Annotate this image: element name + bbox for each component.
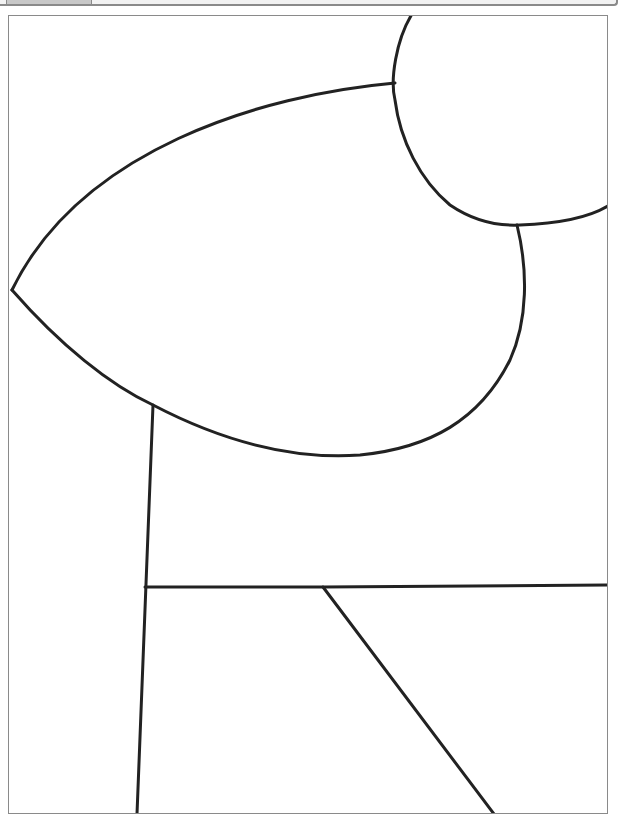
vertical-line bbox=[137, 405, 153, 814]
circle-shape bbox=[393, 14, 608, 225]
horizontal-line bbox=[145, 585, 608, 587]
line-art-drawing bbox=[0, 0, 623, 826]
leaf-bottom-edge bbox=[12, 225, 525, 456]
leaf-top-edge bbox=[12, 83, 395, 290]
diagonal-line bbox=[323, 587, 494, 814]
